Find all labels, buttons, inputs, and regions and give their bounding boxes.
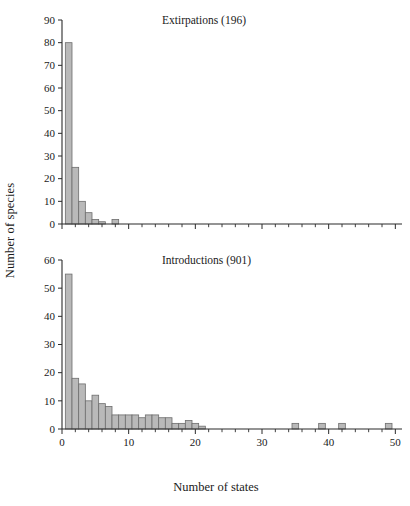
- y-tick-label: 60: [44, 254, 56, 266]
- x-tick-label: 50: [390, 436, 402, 448]
- x-tick-label: 10: [123, 436, 135, 448]
- bar: [132, 415, 139, 429]
- y-tick-label: 30: [44, 338, 56, 350]
- bar: [185, 421, 192, 429]
- y-tick-label: 10: [44, 395, 56, 407]
- y-tick-label: 0: [50, 423, 56, 435]
- x-tick-label: 0: [59, 436, 65, 448]
- bar: [152, 415, 159, 429]
- y-tick-label: 50: [44, 104, 56, 116]
- chart-title-extirpations: Extirpations (196): [162, 14, 246, 26]
- bar: [92, 219, 99, 224]
- bar: [72, 167, 79, 224]
- y-tick-label: 30: [44, 150, 56, 162]
- y-tick-label: 50: [44, 282, 56, 294]
- bar: [85, 401, 92, 429]
- bar: [319, 423, 326, 429]
- bar: [65, 274, 72, 429]
- chart-panel-extirpations: Extirpations (196) 0102030405060708090: [22, 8, 410, 238]
- bar: [105, 406, 112, 429]
- y-tick-label: 10: [44, 195, 56, 207]
- y-axis-label-wrapper: Number of species: [0, 0, 22, 460]
- bar: [119, 415, 126, 429]
- bar: [165, 418, 172, 429]
- bar: [72, 378, 79, 429]
- bar: [125, 415, 132, 429]
- bar: [65, 43, 72, 224]
- y-tick-label: 40: [44, 310, 56, 322]
- bar: [112, 415, 119, 429]
- bar: [99, 404, 106, 429]
- y-axis-label: Number of species: [4, 182, 19, 277]
- y-tick-label: 20: [44, 172, 56, 184]
- chart-panel-introductions: Introductions (901) 01020304050600102030…: [22, 246, 410, 461]
- extirpations-plot: 0102030405060708090: [22, 8, 410, 238]
- bar: [192, 423, 199, 429]
- bar: [172, 423, 179, 429]
- bar: [92, 395, 99, 429]
- bar: [159, 418, 166, 429]
- y-tick-label: 60: [44, 82, 56, 94]
- bar: [79, 384, 86, 429]
- figure-container: Number of species Extirpations (196) 010…: [0, 0, 410, 506]
- bar: [145, 415, 152, 429]
- y-tick-label: 0: [50, 218, 56, 230]
- y-tick-label: 70: [44, 59, 56, 71]
- x-tick-label: 40: [323, 436, 335, 448]
- x-axis-label: Number of states: [22, 480, 410, 495]
- bar: [85, 213, 92, 224]
- y-tick-label: 90: [44, 14, 56, 26]
- bar: [179, 423, 186, 429]
- bar: [339, 423, 346, 429]
- x-tick-label: 30: [257, 436, 269, 448]
- bar: [385, 423, 392, 429]
- chart-title-introductions: Introductions (901): [162, 254, 251, 266]
- bar: [139, 418, 146, 429]
- x-tick-label: 20: [190, 436, 202, 448]
- introductions-plot: 010203040506001020304050: [22, 246, 410, 461]
- y-tick-label: 80: [44, 36, 56, 48]
- y-tick-label: 40: [44, 127, 56, 139]
- bar: [292, 423, 299, 429]
- bar: [79, 201, 86, 224]
- y-tick-label: 20: [44, 366, 56, 378]
- bar: [112, 219, 119, 224]
